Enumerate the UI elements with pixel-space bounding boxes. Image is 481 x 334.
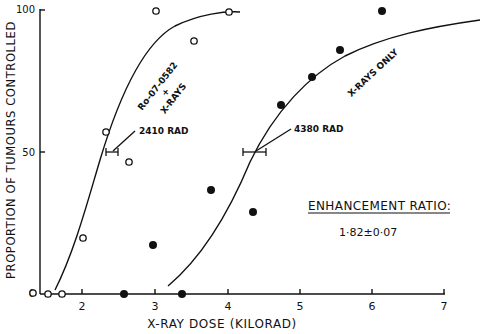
td50-label-a: 2410 RAD <box>139 126 189 136</box>
fit-curve-ro-07-0582 <box>55 12 240 290</box>
x-tick-label: 7 <box>441 300 448 313</box>
series-ro-07-0582-points <box>30 8 232 297</box>
x-tick-label: 3 <box>152 300 159 313</box>
td50-label-b: 4380 RAD <box>294 124 344 134</box>
td50-errorbar-b <box>243 129 291 156</box>
x-tick-label: 6 <box>369 300 376 313</box>
td50-errorbar-a <box>106 131 135 156</box>
x-axis-title: X-RAY DOSE (KILORAD) <box>147 317 297 331</box>
x-tick-label: 2 <box>79 300 86 313</box>
y-tick-label: 100 <box>16 4 35 15</box>
x-tick-label: 4 <box>225 300 232 313</box>
dose-response-chart: 100 50 0 2 3 4 5 6 7 X-RAY DOSE (KILORAD… <box>0 0 481 334</box>
curve-label-xrays-only: X-RAYS ONLY <box>346 47 401 99</box>
x-tick-label: 5 <box>297 300 304 313</box>
enhancement-ratio-title: ENHANCEMENT RATIO: <box>308 199 451 213</box>
fit-curve-xrays-only <box>168 20 480 286</box>
y-tick-label: 50 <box>22 147 35 158</box>
y-axis-title: PROPORTION OF TUMOURS CONTROLLED <box>4 21 18 279</box>
curve-label-ro-07-0582: Ro-07-0582 + X-RAYS <box>136 60 195 124</box>
enhancement-ratio-value: 1·82±0·07 <box>339 226 397 239</box>
